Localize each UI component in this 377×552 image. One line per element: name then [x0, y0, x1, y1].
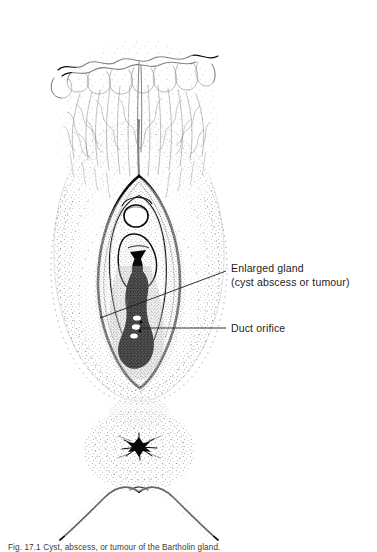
- perineum: [80, 396, 200, 500]
- label-enlarged-gland-line1: Enlarged gland: [231, 262, 350, 276]
- clitoris: [124, 205, 148, 227]
- label-enlarged-gland: Enlarged gland (cyst abscess or tumour): [231, 262, 350, 289]
- label-duct-orifice: Duct orifice: [231, 322, 285, 336]
- figure-caption: Fig. 17.1 Cyst, abscess, or tumour of th…: [8, 543, 220, 552]
- figure-page: Enlarged gland (cyst abscess or tumour) …: [0, 0, 377, 552]
- label-enlarged-gland-line2: (cyst abscess or tumour): [231, 276, 350, 290]
- label-duct-orifice-line1: Duct orifice: [231, 322, 285, 336]
